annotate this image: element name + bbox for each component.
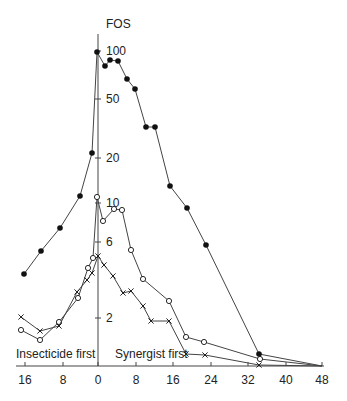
data-point	[94, 49, 100, 55]
data-point	[203, 242, 209, 248]
y-tick-label: 6	[106, 235, 113, 249]
data-point	[110, 273, 115, 278]
data-point	[89, 150, 95, 156]
data-point	[140, 303, 145, 308]
data-point	[201, 339, 206, 344]
x-tick-label: 16	[166, 373, 180, 387]
x-tick-label: 40	[279, 373, 293, 387]
y-tick-label: 2	[106, 311, 113, 325]
synergist-first-label: Synergist first	[115, 347, 188, 361]
data-point	[257, 356, 262, 361]
data-point	[143, 124, 149, 130]
data-point	[18, 314, 23, 319]
data-point	[84, 277, 89, 282]
data-point	[107, 57, 113, 63]
data-point	[102, 63, 108, 69]
data-point	[37, 337, 42, 342]
x-tick-label: 16	[18, 373, 32, 387]
y-tick-label: 50	[106, 92, 120, 106]
data-point	[57, 225, 63, 231]
data-point	[184, 205, 190, 211]
data-point	[90, 255, 95, 260]
y-ticks: 10050201062	[95, 44, 126, 325]
x-tick-label: 24	[204, 373, 218, 387]
data-point	[140, 276, 145, 281]
data-point	[124, 76, 130, 82]
x-tick-label: 0	[95, 373, 102, 387]
data-point	[111, 206, 116, 211]
data-point	[128, 247, 133, 252]
x-tick-label: 8	[60, 373, 67, 387]
fos-chart: 10050201062 168081624324048 FOS Insectic…	[0, 0, 347, 401]
data-point	[119, 207, 124, 212]
x-tick-label: 32	[241, 373, 255, 387]
insecticide-first-label: Insecticide first	[16, 347, 96, 361]
y-tick: 50	[95, 92, 120, 106]
x-tick-label: 48	[315, 373, 329, 387]
data-point	[38, 248, 44, 254]
y-tick: 20	[95, 151, 120, 165]
data-point	[89, 270, 94, 275]
data-point	[152, 124, 158, 130]
y-tick-label: 100	[106, 44, 126, 58]
data-point	[101, 262, 106, 267]
data-series	[18, 49, 322, 367]
data-point	[166, 298, 171, 303]
data-point	[77, 193, 83, 199]
data-point	[256, 351, 262, 357]
data-point	[167, 183, 173, 189]
data-point	[75, 295, 80, 300]
data-point	[18, 327, 23, 332]
data-point	[115, 58, 121, 64]
y-tick-label: 20	[106, 151, 120, 165]
x-tick-label: 8	[133, 373, 140, 387]
data-point	[85, 265, 90, 270]
y-axis-title: FOS	[106, 17, 131, 31]
data-point	[94, 194, 99, 199]
data-point	[21, 271, 27, 277]
axes	[16, 34, 324, 366]
series-open-circles	[18, 194, 322, 366]
data-point	[132, 86, 138, 92]
data-point	[183, 334, 188, 339]
data-point	[74, 289, 79, 294]
data-point	[100, 218, 105, 223]
